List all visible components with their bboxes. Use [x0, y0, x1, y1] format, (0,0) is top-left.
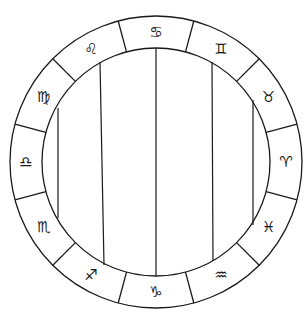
sagittarius-icon: ♐︎: [84, 266, 97, 284]
sign-divider: [266, 192, 297, 200]
sign-divider: [237, 243, 260, 266]
gemini-icon: ♊︎: [214, 40, 227, 58]
capricorn-icon: ♑︎: [149, 283, 162, 301]
zodiac-wheel: ♈︎♉︎♊︎♋︎♌︎♍︎♎︎♏︎♐︎♑︎♒︎♓︎: [0, 0, 308, 320]
libra-icon: ♎︎: [19, 153, 32, 171]
vertical-lines: [58, 48, 253, 276]
sign-divider: [15, 192, 46, 200]
sign-divider: [53, 243, 76, 266]
sign-divider: [237, 59, 260, 82]
virgo-icon: ♍︎: [37, 88, 50, 106]
sign-divider: [266, 124, 297, 132]
scorpio-icon: ♏︎: [37, 218, 51, 236]
sign-divider: [186, 21, 194, 52]
cancer-icon: ♋︎: [149, 23, 162, 41]
aries-icon: ♈︎: [279, 153, 292, 171]
leo-icon: ♌︎: [84, 40, 97, 58]
sign-divider: [186, 272, 194, 303]
vertical-line-4: [212, 62, 213, 261]
aquarius-icon: ♒︎: [214, 266, 227, 284]
pisces-icon: ♓︎: [262, 218, 275, 236]
taurus-icon: ♉︎: [262, 88, 275, 106]
sign-divider: [53, 59, 76, 82]
sign-divider: [15, 124, 46, 132]
vertical-line-2: [100, 62, 104, 265]
sign-divider: [118, 272, 126, 303]
sign-divider: [118, 21, 126, 52]
